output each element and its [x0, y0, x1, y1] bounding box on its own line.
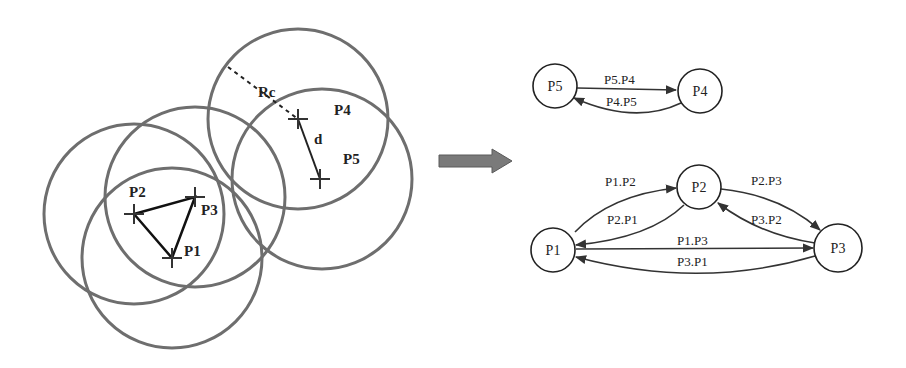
range-circles [44, 29, 412, 348]
distance-label: d [314, 131, 323, 147]
edge-label-p2-p3: P2.P3 [751, 173, 782, 188]
edge-label-p4-p5: P4.P5 [606, 94, 637, 109]
transition-arrow-icon [439, 149, 512, 173]
edge-p5-p4 [577, 88, 676, 90]
graph-node-label-p2: P2 [692, 180, 707, 195]
graph-node-label-p1: P1 [546, 243, 561, 258]
left-label-p3: P3 [201, 202, 218, 218]
edge-p1-p3 [576, 248, 813, 249]
diagram-canvas: Rc d P2 P3 P1 P4 P5 P5.P4 P4.P5 P [0, 0, 906, 368]
edge-label-p1-p2: P1.P2 [605, 174, 636, 189]
graph-bottom: P1.P2 P2.P1 P2.P3 P3.P2 P1.P3 P3.P1 P1 P… [531, 165, 862, 273]
graph-node-label-p5: P5 [548, 79, 563, 94]
cross-marker-p5 [310, 169, 330, 189]
edge-label-p5-p4: P5.P4 [604, 72, 635, 87]
cross-marker-p4 [288, 109, 308, 129]
left-label-p2: P2 [129, 184, 146, 200]
graph-top: P5.P4 P4.P5 P5 P4 [533, 64, 722, 113]
graph-node-label-p3: P3 [831, 241, 846, 256]
graph-node-label-p4: P4 [693, 84, 708, 99]
distance-line [298, 119, 320, 179]
edge-label-p3-p2: P3.P2 [751, 212, 782, 227]
left-label-p5: P5 [343, 151, 360, 167]
left-label-p4: P4 [334, 102, 351, 118]
edge-label-p2-p1: P2.P1 [607, 212, 638, 227]
edge-label-p3-p1: P3.P1 [677, 254, 708, 269]
edge-label-p1-p3: P1.P3 [677, 233, 708, 248]
radius-label: Rc [258, 84, 276, 100]
left-label-p1: P1 [184, 243, 201, 259]
